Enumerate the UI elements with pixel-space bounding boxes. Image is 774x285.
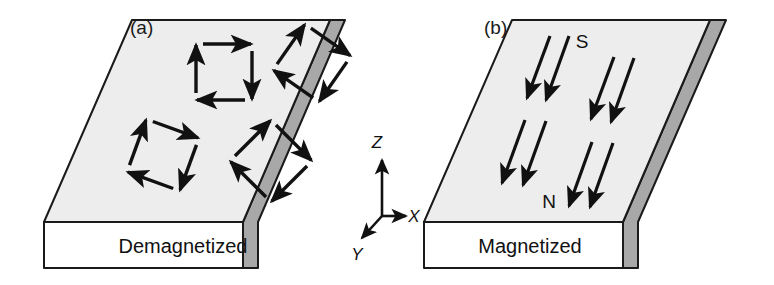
- pole-label-north: N: [542, 191, 556, 212]
- axis-z-label: Z: [371, 133, 383, 152]
- axis-y-label: Y: [351, 245, 364, 264]
- panel-letter-label-a: (a): [130, 17, 153, 38]
- axis-y-line: [362, 216, 382, 238]
- panel-a: (a)Demagnetized: [44, 17, 351, 268]
- axis-x-label: X: [407, 207, 420, 226]
- panel-b: (b)MagnetizedSN: [424, 17, 726, 268]
- magnetization-figure: (a)Demagnetized(b)MagnetizedSNZXY: [0, 0, 774, 285]
- slab-state-label-a: Demagnetized: [119, 235, 248, 257]
- coordinate-axes: ZXY: [351, 133, 420, 264]
- figure-canvas: (a)Demagnetized(b)MagnetizedSNZXY: [0, 0, 774, 285]
- panel-letter-label-b: (b): [484, 17, 507, 38]
- pole-label-south: S: [576, 31, 589, 52]
- slab-state-label-b: Magnetized: [478, 235, 581, 257]
- slab-top-face-b: [424, 20, 710, 222]
